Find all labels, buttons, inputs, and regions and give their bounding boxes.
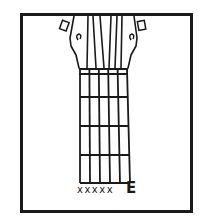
- headstock-string: [93, 16, 96, 68]
- headstock-string: [100, 16, 104, 68]
- chord-name-label: E: [126, 180, 136, 196]
- headstock-left-edge: [70, 16, 79, 68]
- tuner-post-icon: [130, 34, 134, 40]
- tuner-peg-icon: [59, 20, 69, 31]
- headstock-string: [109, 16, 111, 68]
- muted-strings-label: xxxxx: [77, 184, 114, 196]
- fretboard: [79, 69, 130, 183]
- headstock-string: [115, 16, 117, 68]
- tuner-peg-icon: [137, 20, 145, 30]
- tuner-right: [130, 20, 146, 40]
- headstock-string: [87, 16, 88, 68]
- diagram-frame: [22, 15, 192, 212]
- headstock-string: [121, 16, 122, 68]
- headstock: [70, 16, 137, 68]
- headstock-right-edge: [128, 16, 137, 68]
- tuner-post-icon: [77, 34, 81, 40]
